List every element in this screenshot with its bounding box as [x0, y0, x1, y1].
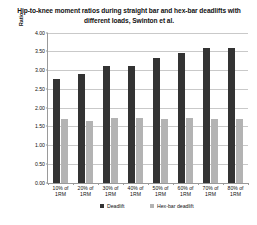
x-tick-label: 40% of1RM: [128, 185, 144, 198]
x-tick-mark: [73, 183, 74, 185]
y-tick-label: 3.50: [35, 48, 45, 54]
gridline: [48, 70, 248, 71]
x-tick-mark: [98, 183, 99, 185]
bar: [236, 119, 244, 183]
chart-legend: DeadliftHex-bar deadlift: [47, 203, 247, 209]
legend-swatch-icon: [100, 204, 104, 208]
y-tick-mark: [46, 107, 48, 108]
gridline: [48, 51, 248, 52]
y-axis-title: Ratio: [18, 13, 24, 26]
y-tick-label: 3.00: [35, 67, 45, 73]
y-tick-mark: [46, 145, 48, 146]
chart-title: Hip-to-knee moment ratios during straigh…: [16, 6, 242, 25]
x-tick-label: 20% of1RM: [78, 185, 94, 198]
y-tick-label: 1.50: [35, 123, 45, 129]
y-tick-mark: [46, 88, 48, 89]
bar: [78, 74, 86, 183]
x-tick-label: 50% of1RM: [153, 185, 169, 198]
y-tick-mark: [46, 126, 48, 127]
x-tick-mark: [173, 183, 174, 185]
bar: [136, 118, 144, 183]
x-tick-mark: [148, 183, 149, 185]
x-tick-mark: [48, 183, 49, 185]
legend-entry[interactable]: Hex-bar deadlift: [150, 203, 193, 209]
y-tick-label: 1.00: [35, 142, 45, 148]
y-tick-mark: [46, 51, 48, 52]
bar: [186, 118, 194, 183]
bar: [178, 53, 186, 182]
plot-area: 0.000.501.001.502.002.503.003.504.00 10%…: [47, 33, 248, 184]
x-tick-label: 30% of1RM: [103, 185, 119, 198]
legend-swatch-icon: [150, 204, 154, 208]
y-tick-label: 0.00: [35, 180, 45, 186]
x-tick-label: 60% of1RM: [178, 185, 194, 198]
bar: [86, 121, 94, 183]
bar: [53, 79, 61, 182]
y-tick-label: 4.00: [35, 30, 45, 36]
gridline: [48, 33, 248, 34]
bar: [111, 118, 119, 183]
bar: [161, 119, 169, 183]
bar: [128, 66, 136, 182]
x-tick-label: 10% of1RM: [53, 185, 69, 198]
y-tick-label: 0.50: [35, 161, 45, 167]
bar: [228, 48, 236, 182]
bar: [61, 119, 69, 183]
chart-container: Hip-to-knee moment ratios during straigh…: [0, 0, 257, 225]
y-tick-mark: [46, 70, 48, 71]
x-tick-label: 80% of1RM: [228, 185, 244, 198]
bar: [211, 119, 219, 183]
x-tick-label: 70% of1RM: [203, 185, 219, 198]
x-tick-mark: [123, 183, 124, 185]
x-tick-mark: [198, 183, 199, 185]
x-tick-mark: [223, 183, 224, 185]
y-tick-label: 2.50: [35, 86, 45, 92]
y-tick-mark: [46, 163, 48, 164]
y-tick-mark: [46, 32, 48, 33]
legend-entry[interactable]: Deadlift: [100, 203, 124, 209]
legend-label: Hex-bar deadlift: [157, 203, 194, 209]
bar: [103, 66, 111, 183]
x-tick-mark: [248, 183, 249, 185]
y-tick-label: 2.00: [35, 105, 45, 111]
bar: [203, 48, 211, 182]
legend-label: Deadlift: [107, 203, 125, 209]
bar: [153, 58, 161, 183]
